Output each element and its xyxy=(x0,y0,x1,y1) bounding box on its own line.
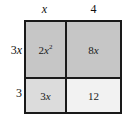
cell-row0-col1: 8x xyxy=(67,22,120,79)
column-label-0-text: x xyxy=(42,2,47,16)
cell-row1-col1: 12 xyxy=(67,79,120,112)
cell-row1-col0-variable: x xyxy=(46,90,51,102)
row-label-1-text: 3 xyxy=(16,86,22,100)
column-label-1-text: 4 xyxy=(91,2,97,16)
cell-row0-col0-exponent: 2 xyxy=(49,43,53,51)
row-label-1: 3 xyxy=(0,86,22,100)
column-label-0: x xyxy=(24,2,65,17)
area-model-grid: 2x2 8x 3x 12 xyxy=(24,20,122,114)
row-label-0: 3x xyxy=(0,43,22,57)
row-label-0-variable: x xyxy=(17,43,22,57)
cell-row0-col0-term: 2x2 xyxy=(39,43,53,56)
cell-row0-col1-term: 8x xyxy=(88,44,98,56)
column-label-1: 4 xyxy=(65,2,122,17)
cell-row1-col0: 3x xyxy=(26,79,67,112)
cell-row0-col0: 2x2 xyxy=(26,22,67,79)
cell-row0-col1-variable: x xyxy=(94,44,99,56)
cell-row1-col1-term: 12 xyxy=(88,90,99,102)
area-model-diagram: x 4 3x 3 2x2 8x 3x 12 xyxy=(0,0,131,118)
cell-row1-col0-term: 3x xyxy=(40,90,50,102)
